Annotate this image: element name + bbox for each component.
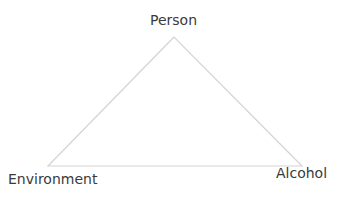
label-alcohol: Alcohol <box>276 165 327 181</box>
triangle-outline <box>48 37 302 166</box>
label-person: Person <box>150 12 197 28</box>
epidemiological-triangle-diagram: Person Environment Alcohol <box>0 0 341 198</box>
label-environment: Environment <box>8 171 97 187</box>
